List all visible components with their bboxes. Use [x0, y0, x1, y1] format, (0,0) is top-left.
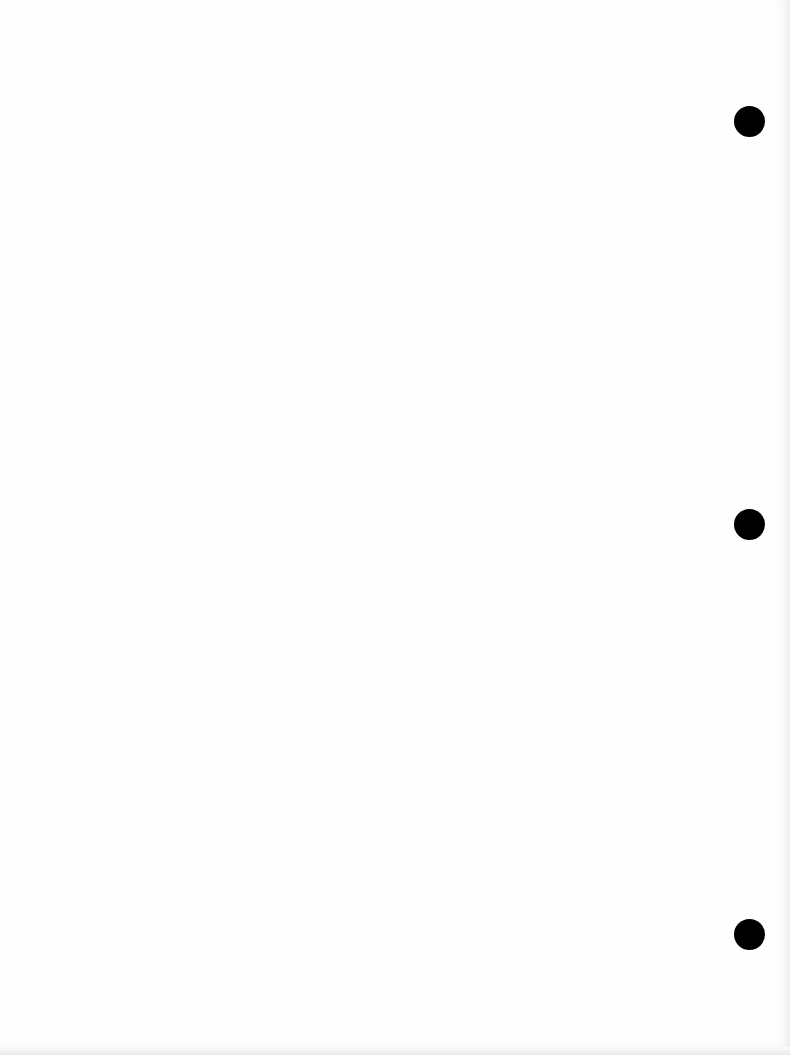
- page-edge-bottom: [0, 1047, 790, 1055]
- punch-hole-icon: [734, 919, 765, 950]
- page-edge-right: [782, 0, 790, 1055]
- punch-hole-icon: [734, 509, 765, 540]
- blank-page: [0, 0, 784, 1049]
- punch-hole-icon: [734, 106, 765, 137]
